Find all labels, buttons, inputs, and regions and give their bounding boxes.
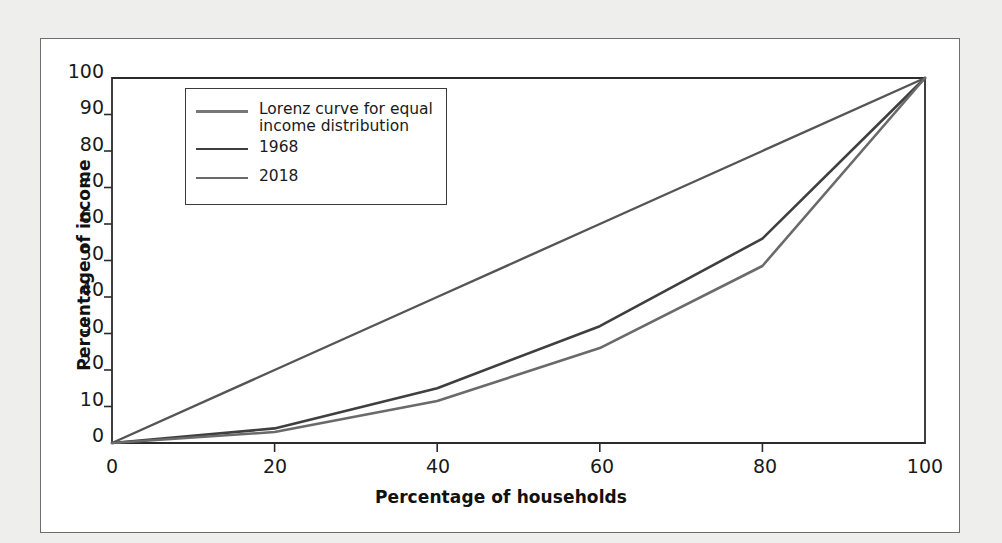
- y-axis-title-wrapper: Percentage of income: [74, 55, 94, 475]
- xtick-label-80: 80: [735, 455, 795, 477]
- x-axis-title: Percentage of households: [0, 487, 1002, 507]
- page-background: 100 90 80 70 60 50 40 30 20 10 0 0 20 40…: [0, 0, 1002, 543]
- xtick-label-60: 60: [572, 455, 632, 477]
- legend-label-1968: 1968: [259, 139, 298, 156]
- legend-swatch-lorenz-equal: [196, 110, 248, 113]
- legend-swatch-2018: [196, 177, 248, 179]
- legend-entry-lorenz-equal: Lorenz curve for equal income distributi…: [196, 101, 433, 135]
- chart-legend: Lorenz curve for equal income distributi…: [185, 88, 447, 205]
- y-axis-title: Percentage of income: [74, 159, 94, 370]
- xtick-label-40: 40: [408, 455, 468, 477]
- legend-entry-2018: 2018: [196, 168, 298, 185]
- legend-label-lorenz-equal: Lorenz curve for equal income distributi…: [259, 101, 433, 135]
- xtick-label-20: 20: [245, 455, 305, 477]
- lorenz-curve-chart: [0, 0, 1002, 543]
- legend-label-2018: 2018: [259, 168, 298, 185]
- xtick-label-100: 100: [895, 455, 955, 477]
- legend-entry-1968: 1968: [196, 139, 298, 156]
- legend-swatch-1968: [196, 148, 248, 150]
